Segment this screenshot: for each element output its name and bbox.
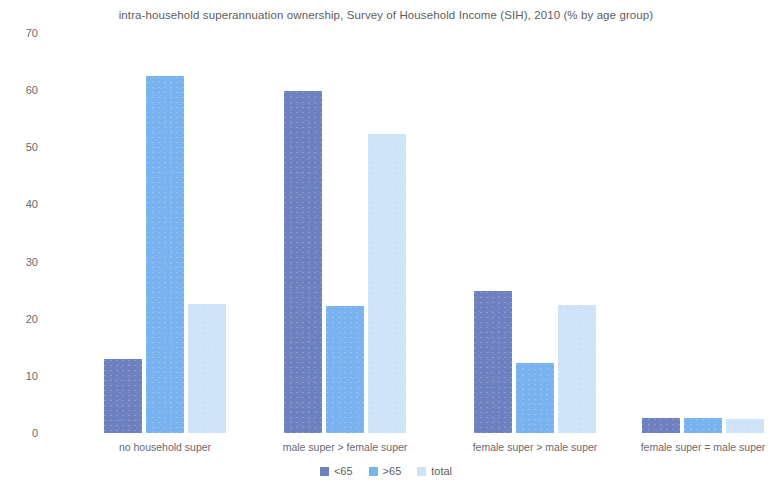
legend-item-label: >65 [383,465,402,477]
bar[interactable] [684,418,722,433]
plot-area: 706050403020100no household supermale su… [46,33,768,433]
bar-group [474,33,596,433]
x-axis-category-label: no household super [119,441,211,453]
bar[interactable] [368,134,406,433]
legend-item[interactable]: <65 [320,465,353,477]
bar-group [642,33,764,433]
bar[interactable] [726,419,764,433]
x-axis-category-label: female super = male super [641,441,766,453]
bar[interactable] [474,291,512,433]
y-axis-tick-label: 0 [2,427,38,439]
chart-title: intra-household superannuation ownership… [0,9,772,21]
x-axis-category-label: female super > male super [473,441,598,453]
chart-legend: <65>65total [0,465,772,477]
legend-swatch-light-blue [417,467,426,476]
bar[interactable] [516,363,554,433]
bar[interactable] [642,418,680,433]
bar-group [104,33,226,433]
legend-item[interactable]: >65 [369,465,402,477]
legend-item[interactable]: total [417,465,452,477]
legend-item-label: total [431,465,452,477]
bar[interactable] [284,91,322,433]
y-axis-tick-label: 50 [2,141,38,153]
x-axis-category-label: male super > female super [283,441,408,453]
y-axis-tick-label: 30 [2,256,38,268]
legend-swatch-dark-blue [320,467,329,476]
legend-item-label: <65 [334,465,353,477]
bar[interactable] [326,306,364,433]
bar[interactable] [558,305,596,433]
y-axis-tick-label: 40 [2,198,38,210]
y-axis-tick-label: 70 [2,27,38,39]
bar-chart: intra-household superannuation ownership… [0,0,772,484]
bar[interactable] [104,359,142,433]
y-axis-tick-label: 60 [2,84,38,96]
bar[interactable] [188,304,226,433]
y-axis-tick-label: 10 [2,370,38,382]
bar[interactable] [146,76,184,433]
y-axis-tick-label: 20 [2,313,38,325]
bar-group [284,33,406,433]
legend-swatch-medium-blue [369,467,378,476]
